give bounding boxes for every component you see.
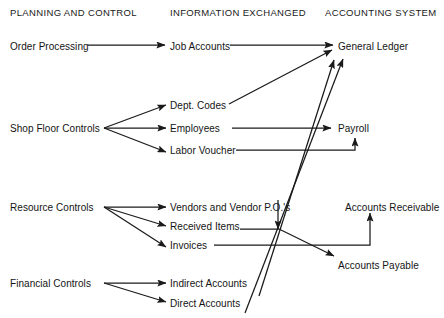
column-header-planning: PLANNING AND CONTROL <box>10 8 137 18</box>
node-received-items: Received Items <box>170 222 240 232</box>
flow-diagram: PLANNING AND CONTROL INFORMATION EXCHANG… <box>0 0 444 318</box>
edge-dept-codes-to-general-ledger <box>229 50 332 104</box>
node-indirect-accounts: Indirect Accounts <box>170 279 247 289</box>
node-accounts-receivable: Accounts Receivable <box>345 203 439 213</box>
edge-direct-accounts-to-general-ledger <box>245 59 343 313</box>
node-financial-controls: Financial Controls <box>10 279 91 289</box>
node-order-processing: Order Processing <box>10 42 89 52</box>
edge-shop-floor-controls-to-dept-codes <box>104 105 166 128</box>
node-invoices: Invoices <box>170 241 207 251</box>
node-labor-voucher: Labor Voucher <box>170 146 236 156</box>
edge-resource-controls-to-invoices <box>104 207 166 247</box>
edge-resource-controls-to-received-items <box>104 207 166 226</box>
node-accounts-payable: Accounts Payable <box>338 261 419 271</box>
node-resource-controls: Resource Controls <box>10 203 94 213</box>
column-header-information: INFORMATION EXCHANGED <box>170 8 306 18</box>
node-general-ledger: General Ledger <box>338 42 408 52</box>
node-vendors-and-vendor-pos: Vendors and Vendor P.O.'s <box>170 203 290 213</box>
node-payroll: Payroll <box>338 124 369 134</box>
edge-received-items-to-accounts-payable <box>279 229 334 256</box>
edge-labor-voucher-to-payroll <box>236 138 355 150</box>
column-header-accounting: ACCOUNTING SYSTEM <box>325 8 437 18</box>
node-job-accounts: Job Accounts <box>170 42 230 52</box>
node-direct-accounts: Direct Accounts <box>170 299 240 309</box>
node-dept-codes: Dept. Codes <box>170 101 226 111</box>
node-shop-floor-controls: Shop Floor Controls <box>10 124 100 134</box>
edge-financial-controls-to-direct-accounts <box>104 283 166 302</box>
edge-shop-floor-controls-to-labor-voucher <box>104 128 166 152</box>
node-employees: Employees <box>170 124 220 134</box>
